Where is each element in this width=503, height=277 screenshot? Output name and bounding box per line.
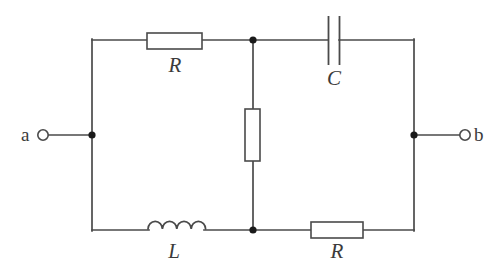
resistor-top-symbol <box>147 33 202 49</box>
capacitor-label: C <box>306 68 362 89</box>
circuit-diagram: R C L R a b <box>0 0 503 277</box>
node-dot-b <box>410 131 417 138</box>
capacitor-symbol <box>329 16 340 65</box>
node-dot-a <box>88 131 95 138</box>
terminal-a-label: a <box>21 125 29 144</box>
resistor-bottom-symbol <box>311 222 363 238</box>
terminal-b-circle[interactable] <box>460 130 470 140</box>
terminal-b-label: b <box>474 125 484 144</box>
resistor-bottom-label: R <box>309 241 365 262</box>
node-dot-top-middle <box>249 36 256 43</box>
resistor-middle-symbol <box>245 109 260 161</box>
circuit-schematic-canvas <box>0 0 503 277</box>
terminal-a-circle[interactable] <box>38 130 48 140</box>
inductor-coil-path <box>148 221 206 229</box>
node-dot-bottom-middle <box>249 226 256 233</box>
inductor-label: L <box>146 241 202 262</box>
inductor-symbol <box>148 221 206 229</box>
resistor-top-label: R <box>147 55 203 76</box>
